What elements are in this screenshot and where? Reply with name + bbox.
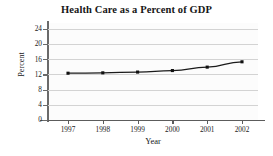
y-tick-label: 4: [16, 101, 42, 108]
x-axis-title: Year: [48, 136, 258, 146]
x-tick-mark: [207, 120, 208, 124]
y-tick-mark: [43, 120, 48, 121]
x-tick-mark: [138, 120, 139, 124]
data-series-layer: [48, 23, 258, 120]
x-tick-mark: [103, 120, 104, 124]
data-point-marker: [240, 60, 243, 63]
chart-title: Health Care as a Percent of GDP: [0, 4, 273, 15]
x-tick-mark: [242, 120, 243, 124]
x-tick-mark: [172, 120, 173, 124]
y-axis-title: Percent: [17, 35, 26, 95]
data-point-marker: [101, 71, 104, 74]
gridline: [48, 120, 258, 121]
x-tick-mark: [68, 120, 69, 124]
chart-figure: Health Care as a Percent of GDP 04812162…: [0, 0, 273, 156]
y-tick-label: 24: [16, 25, 42, 32]
y-tick-label: 0: [16, 116, 42, 123]
data-point-marker: [66, 72, 69, 75]
data-point-marker: [206, 66, 209, 69]
x-tick-label: 2002: [222, 126, 262, 133]
series-line: [68, 62, 242, 73]
data-point-marker: [171, 69, 174, 72]
data-point-marker: [136, 71, 139, 74]
